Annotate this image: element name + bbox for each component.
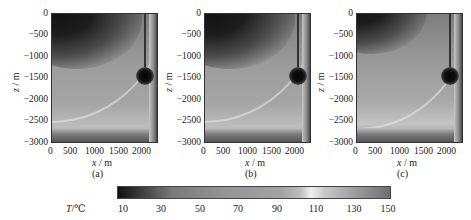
colorbar-tick: 110 (309, 203, 324, 214)
colorbar-tick: 50 (195, 203, 205, 214)
colorbar (117, 186, 391, 199)
panel-caption: (c) (397, 168, 408, 179)
x-tick: 0 (201, 146, 206, 156)
cold-zone-blob (136, 67, 154, 85)
y-tick: −500 (161, 29, 201, 39)
colorbar-tick: 10 (118, 203, 128, 214)
x-tick: 0 (48, 146, 53, 156)
x-tick: 2000 (132, 146, 151, 156)
y-tick: −1000 (161, 51, 201, 61)
y-axis-label: z / m (163, 73, 174, 92)
cold-zone-blob (441, 67, 459, 85)
colorbar-tick: 30 (156, 203, 166, 214)
colorbar-tick: 150 (381, 203, 396, 214)
x-tick: 500 (63, 146, 77, 156)
panel-caption: (a) (92, 168, 103, 179)
x-tick: 500 (216, 146, 230, 156)
colorbar-tick: 70 (233, 203, 243, 214)
x-axis-label: x / m (92, 157, 112, 168)
y-tick: −3000 (313, 137, 353, 147)
panel-b: 0 −500 −1000 −1500 −2000 −2500 −3000 z /… (153, 0, 313, 180)
y-tick: 0 (313, 8, 353, 18)
y-tick: −3000 (8, 137, 48, 147)
x-tick: 1500 (109, 146, 128, 156)
x-tick: 500 (368, 146, 382, 156)
x-tick: 0 (353, 146, 358, 156)
colorbar-label: T/℃ (66, 203, 86, 214)
deep-band (52, 128, 157, 142)
y-axis-label: z / m (10, 73, 21, 92)
x-tick: 2000 (285, 146, 304, 156)
x-tick: 1500 (414, 146, 433, 156)
y-tick: −3000 (161, 137, 201, 147)
x-tick: 1500 (262, 146, 281, 156)
y-tick: −2000 (161, 94, 201, 104)
panel-caption: (b) (245, 168, 257, 179)
panel-a: 0 −500 −1000 −1500 −2000 −2500 −3000 z /… (0, 0, 160, 180)
panel-c: 0 −500 −1000 −1500 −2000 −2500 −3000 z /… (305, 0, 465, 180)
y-tick: −500 (313, 29, 353, 39)
x-tick: 2000 (437, 146, 456, 156)
deep-band (205, 128, 310, 142)
y-tick: −500 (8, 29, 48, 39)
y-tick: 0 (8, 8, 48, 18)
x-tick: 1000 (238, 146, 257, 156)
y-tick: −2500 (8, 115, 48, 125)
y-axis-label: z / m (315, 73, 326, 92)
colorbar-tick: 130 (347, 203, 362, 214)
y-tick: −1000 (313, 51, 353, 61)
colorbar-tick: 90 (272, 203, 282, 214)
y-tick: −2000 (313, 94, 353, 104)
x-axis-label: x / m (397, 157, 417, 168)
x-tick: 1000 (85, 146, 104, 156)
heatmap-plot-a (51, 13, 158, 143)
heatmap-plot-c (356, 13, 463, 143)
deep-band (357, 128, 462, 142)
x-axis-label: x / m (245, 157, 265, 168)
y-tick: −2500 (161, 115, 201, 125)
y-tick: 0 (161, 8, 201, 18)
y-tick: −2000 (8, 94, 48, 104)
y-tick: −1000 (8, 51, 48, 61)
x-tick: 1000 (390, 146, 409, 156)
y-tick: −2500 (313, 115, 353, 125)
heatmap-plot-b (204, 13, 311, 143)
